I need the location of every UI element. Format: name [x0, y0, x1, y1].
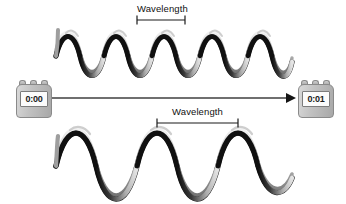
- wavelength-bracket-top: [137, 16, 185, 25]
- stopwatch-start-value: 0:00: [25, 95, 42, 104]
- wavelength-label-bottom: Wavelength: [157, 106, 238, 117]
- wavelength-bracket-bottom: [157, 119, 238, 128]
- stopwatch-end: 0:01: [296, 78, 336, 120]
- wavelength-label-top: Wavelength: [137, 3, 185, 14]
- wavelength-frequency-figure: Wavelength Wavelength 0:00 0:01: [0, 0, 346, 204]
- stopwatch-start: 0:00: [14, 78, 54, 120]
- low-frequency-wave-path: [56, 127, 292, 199]
- stopwatch-screen-start: 0:00: [20, 91, 48, 107]
- arrow-right-icon: [52, 93, 296, 103]
- stopwatch-end-value: 0:01: [307, 95, 324, 104]
- stopwatch-screen-end: 0:01: [302, 91, 330, 107]
- high-frequency-wave-path: [56, 30, 292, 76]
